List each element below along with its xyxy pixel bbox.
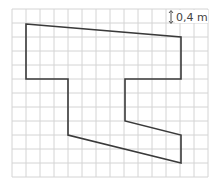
grid-lines xyxy=(12,9,208,177)
double-arrow-icon xyxy=(169,11,173,24)
scale-label: 0,4 m xyxy=(176,11,208,24)
scale-indicator: 0,4 m xyxy=(169,10,208,24)
grid-figure: 0,4 m xyxy=(0,0,215,188)
